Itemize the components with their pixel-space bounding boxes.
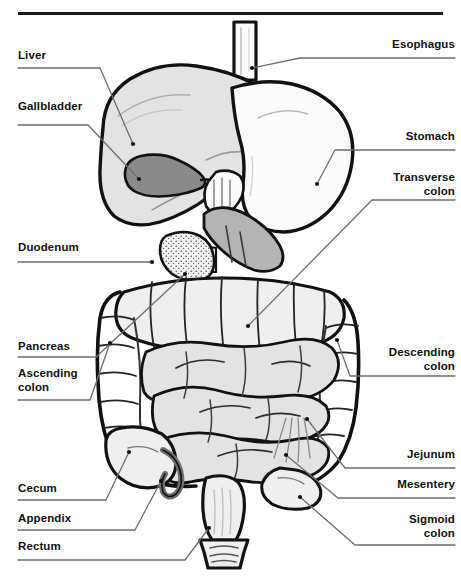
label-esophagus: Esophagus — [363, 37, 455, 51]
organ-esophagus — [234, 22, 256, 80]
label-liver: Liver — [18, 48, 108, 62]
label-stomach: Stomach — [363, 129, 455, 143]
label-rectum: Rectum — [18, 539, 108, 553]
label-transverse-colon: Transverse colon — [363, 170, 455, 198]
label-gallbladder: Gallbladder — [18, 99, 114, 113]
label-cecum: Cecum — [18, 481, 108, 495]
label-ascending-colon: Ascending colon — [18, 366, 108, 394]
label-jejunum: Jejunum — [363, 447, 455, 461]
label-descending-colon: Descending colon — [363, 345, 455, 373]
label-appendix: Appendix — [18, 511, 108, 525]
digestive-system-figure: Liver Gallbladder Duodenum Pancreas Asce… — [0, 0, 461, 576]
organ-stomach — [232, 82, 353, 232]
label-mesentery: Mesentery — [363, 477, 455, 491]
organ-rectum — [200, 476, 248, 568]
label-duodenum: Duodenum — [18, 240, 114, 254]
label-sigmoid-colon: Sigmoid colon — [363, 512, 455, 540]
label-pancreas: Pancreas — [18, 339, 108, 353]
